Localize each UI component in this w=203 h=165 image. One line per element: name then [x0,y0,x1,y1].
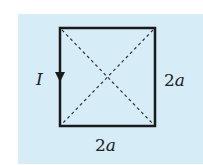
current-label: I [35,69,43,89]
bottom-side-label: 2a [95,135,116,155]
square-loop-diagram: I 2a 2a [0,0,203,165]
current-loop-square [60,28,155,126]
right-side-label: 2a [164,70,185,90]
current-arrow-icon [55,72,65,82]
